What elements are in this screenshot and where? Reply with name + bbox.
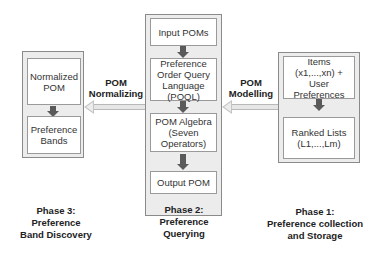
poql-box: Preference Order Query Language (POQL): [150, 58, 217, 101]
preference-bands-label: Preference Bands: [27, 124, 81, 146]
phase1-caption: Phase 1: Preference collection and Stora…: [262, 206, 368, 242]
ranked-lists-box: Ranked Lists (L1,...,Lm): [283, 117, 355, 159]
phase1-caption-line3: and Storage: [262, 230, 368, 242]
poql-label: Preference Order Query Language (POQL): [151, 58, 216, 102]
phase3-caption-line2: Preference: [14, 217, 98, 229]
phase2-caption-line3: Querying: [143, 228, 225, 240]
arrow-pom-normalizing: [84, 102, 146, 112]
arrow-shaft: [230, 104, 279, 110]
arrow-pom-modelling: [222, 102, 279, 112]
phase1-caption-line1: Phase 1:: [262, 206, 368, 218]
pom-normalizing-label: POM Normalizing: [86, 77, 146, 99]
output-pom-box: Output POM: [150, 171, 217, 194]
pom-algebra-box: POM Algebra (Seven Operators): [150, 113, 217, 152]
normalized-pom-label: Normalized POM: [26, 71, 82, 93]
phase1-caption-line2: Preference collection: [262, 218, 368, 230]
phase3-caption-line1: Phase 3:: [14, 205, 98, 217]
phase2-caption-line2: Preference: [143, 216, 225, 228]
phase2-caption-line1: Phase 2:: [143, 204, 225, 216]
output-pom-label: Output POM: [157, 177, 210, 188]
input-poms-box: Input POMs: [150, 18, 217, 46]
normalized-pom-box: Normalized POM: [27, 58, 81, 105]
pom-normalizing-line1: POM: [86, 77, 146, 88]
phase3-caption-line3: Band Discovery: [14, 229, 98, 241]
arrow-head-inner: [86, 102, 93, 112]
arrow-head-inner: [224, 102, 231, 112]
preference-bands-box: Preference Bands: [27, 116, 81, 154]
pom-modelling-line2: Modelling: [224, 88, 278, 99]
input-poms-label: Input POMs: [158, 27, 208, 38]
phase3-caption: Phase 3: Preference Band Discovery: [14, 205, 98, 241]
phase2-caption: Phase 2: Preference Querying: [143, 204, 225, 240]
items-preferences-label: Items (x1,...,xn) + User Preferences: [284, 56, 354, 100]
pom-modelling-line1: POM: [224, 77, 278, 88]
pom-algebra-label: POM Algebra (Seven Operators): [151, 116, 216, 149]
items-preferences-box: Items (x1,...,xn) + User Preferences: [283, 56, 355, 99]
pom-normalizing-line2: Normalizing: [86, 88, 146, 99]
arrow-shaft: [92, 104, 146, 110]
ranked-lists-label: Ranked Lists (L1,...,Lm): [284, 127, 354, 149]
pom-modelling-label: POM Modelling: [224, 77, 278, 99]
